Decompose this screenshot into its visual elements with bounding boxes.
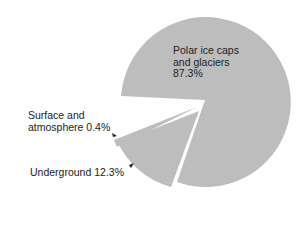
surface-label-line1: Surface and bbox=[28, 110, 110, 122]
surface-label-line2: atmosphere 0.4% bbox=[28, 122, 110, 134]
polar-label-line1: Polar ice caps bbox=[173, 45, 239, 57]
polar-label: Polar ice caps and glaciers 87.3% bbox=[173, 45, 239, 80]
surface-arrow-icon bbox=[112, 133, 117, 137]
polar-label-value: 87.3% bbox=[173, 68, 239, 80]
underground-arrow-icon bbox=[129, 163, 134, 168]
underground-label: Underground 12.3% bbox=[30, 167, 124, 179]
surface-label: Surface and atmosphere 0.4% bbox=[28, 110, 110, 133]
